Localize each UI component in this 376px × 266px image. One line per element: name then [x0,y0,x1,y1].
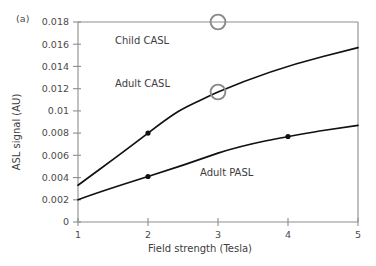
y-tick-label: 0.016 [42,39,69,50]
y-tick-label: 0.018 [42,16,69,27]
data-point-adult-pasl-4 [285,134,290,139]
y-tick-label: 0.01 [48,105,69,116]
data-point-adult-casl-1p5 [145,131,150,136]
y-axis-tick-labels: 0 0.002 0.004 0.006 0.008 0.01 0.012 0.0… [42,16,69,227]
x-tick-label: 1 [75,229,81,240]
series-line-adult-pasl [78,125,358,199]
series-label-child-casl: Child CASL [115,35,170,46]
asl-signal-chart: 0 0.002 0.004 0.006 0.008 0.01 0.012 0.0… [0,0,376,266]
y-tick-label: 0.004 [42,172,69,183]
x-axis-title: Field strength (Tesla) [148,243,252,254]
x-axis-tick-labels: 1 2 3 4 5 [75,229,361,240]
y-tick-label: 0.006 [42,150,69,161]
data-point-adult-pasl-1p5 [145,174,150,179]
figure-panel: (a) 0 0.002 0.004 0.006 0 [0,0,376,266]
series-line-adult-casl [78,48,358,186]
series-label-adult-casl: Adult CASL [115,78,170,89]
x-tick-label: 5 [355,229,361,240]
x-tick-label: 4 [285,229,291,240]
highlight-markers [211,15,226,100]
y-tick-label: 0 [63,216,69,227]
y-axis-ticks [73,22,81,222]
y-tick-label: 0.014 [42,61,69,72]
x-tick-label: 3 [215,229,221,240]
x-tick-label: 2 [145,229,151,240]
y-axis-title: ASL signal (AU) [11,94,22,171]
y-tick-label: 0.008 [42,127,69,138]
y-tick-label: 0.012 [42,83,69,94]
y-tick-label: 0.002 [42,194,69,205]
plot-frame [78,22,358,222]
series-label-adult-pasl: Adult PASL [200,167,254,178]
